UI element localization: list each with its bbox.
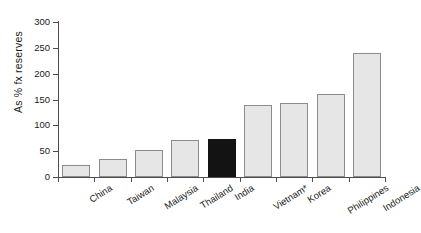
x-tick-mark [240, 178, 241, 182]
y-tick-label: 0 [18, 172, 50, 182]
y-tick-label-text: 150 [22, 95, 50, 105]
x-tick-mark [58, 178, 59, 182]
bar-vietnam [244, 105, 272, 177]
bar-philippines [317, 94, 345, 177]
x-axis-label-vietnam: Vietnam* [272, 183, 310, 212]
x-axis-label-india: India [233, 183, 256, 202]
y-tick-label-text: 0 [22, 172, 50, 182]
x-tick-mark [94, 178, 95, 182]
x-tick-mark [385, 178, 386, 182]
y-tick-label: 50 [18, 146, 50, 156]
y-tick-label: 250 [18, 43, 50, 53]
x-axis-label-text: Thailand [199, 183, 235, 211]
x-tick-mark [349, 178, 350, 182]
y-tick-label-text: 50 [22, 146, 50, 156]
bar-taiwan [99, 159, 127, 177]
x-axis-label-text: Malaysia [163, 183, 200, 211]
x-tick-mark [276, 178, 277, 182]
x-tick-mark [203, 178, 204, 182]
x-tick-mark [312, 178, 313, 182]
x-axis-label-korea: Korea [306, 183, 333, 205]
y-tick-label-text: 200 [22, 69, 50, 79]
x-axis-label-text: Taiwan [125, 183, 155, 207]
x-axis-label-philippines: Philippines [345, 183, 389, 216]
y-tick-label-text: 250 [22, 43, 50, 53]
y-tick-label: 300 [18, 17, 50, 27]
x-axis-label-text: India [233, 183, 256, 202]
bar-china [62, 165, 90, 177]
x-axis-label-text: Vietnam* [272, 183, 310, 212]
x-tick-mark [131, 178, 132, 182]
x-axis-label-text: Korea [306, 183, 333, 205]
y-tick-label: 150 [18, 95, 50, 105]
x-axis-label-china: China [88, 183, 114, 205]
bar-korea [280, 103, 308, 177]
x-axis-label-text: China [88, 183, 114, 205]
x-axis-line [58, 177, 386, 178]
y-tick-label: 200 [18, 69, 50, 79]
x-axis-label-text: Philippines [345, 183, 389, 216]
bar-malaysia [135, 150, 163, 177]
bar-thailand [171, 140, 199, 177]
x-tick-mark [167, 178, 168, 182]
y-tick-label: 100 [18, 120, 50, 130]
plot-area [58, 22, 385, 177]
y-tick-label-text: 300 [22, 17, 50, 27]
x-axis-label-malaysia: Malaysia [163, 183, 200, 211]
x-axis-label-thailand: Thailand [199, 183, 235, 211]
bar-indonesia [353, 53, 381, 177]
x-axis-label-taiwan: Taiwan [125, 183, 155, 207]
bar-india [208, 139, 236, 177]
y-tick-label-text: 100 [22, 120, 50, 130]
